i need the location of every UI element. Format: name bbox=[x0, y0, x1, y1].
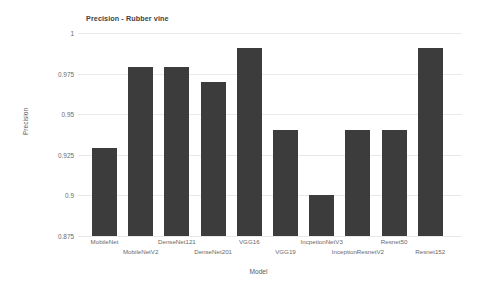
y-tick-label: 0.9 bbox=[65, 192, 74, 199]
chart-title: Precision - Rubber vine bbox=[86, 14, 169, 23]
x-tick-label: VGG19 bbox=[275, 248, 296, 255]
bar bbox=[345, 130, 370, 236]
y-axis-tick-labels: 10.9750.950.9250.90.875 bbox=[42, 33, 74, 236]
y-tick-label: 0.925 bbox=[58, 151, 74, 158]
x-tick-label: MobileNetV2 bbox=[123, 248, 158, 255]
bar bbox=[201, 82, 226, 236]
x-tick-label: InceptionResnetV2 bbox=[332, 248, 384, 255]
gridline bbox=[78, 236, 462, 237]
bar bbox=[309, 195, 334, 236]
x-tick-label: VGG16 bbox=[239, 238, 260, 245]
bar bbox=[418, 48, 443, 236]
x-tick-label: MobileNet bbox=[91, 238, 119, 245]
x-tick-label: Resnet152 bbox=[415, 248, 445, 255]
bar bbox=[237, 48, 262, 236]
y-tick-label: 0.95 bbox=[62, 111, 74, 118]
y-tick-label: 1 bbox=[70, 30, 74, 37]
precision-bar-chart: Precision - Rubber vine 10.9750.950.9250… bbox=[0, 0, 477, 287]
x-tick-label: IncpetionNetV3 bbox=[301, 238, 343, 245]
bar bbox=[164, 67, 189, 236]
y-axis-title: Precision bbox=[22, 108, 29, 135]
bar bbox=[273, 130, 298, 236]
x-axis-title: Model bbox=[0, 268, 477, 275]
gridline bbox=[78, 33, 462, 34]
x-tick-label: DenseNet121 bbox=[158, 238, 196, 245]
plot-area bbox=[78, 33, 462, 236]
x-axis-tick-labels: MobileNetMobileNetV2DenseNet121DenseNet2… bbox=[0, 238, 477, 262]
x-tick-label: DenseNet201 bbox=[194, 248, 232, 255]
x-tick-label: Resnet50 bbox=[381, 238, 408, 245]
bar bbox=[128, 67, 153, 236]
bar bbox=[382, 130, 407, 236]
bar bbox=[92, 148, 117, 236]
y-tick-label: 0.975 bbox=[58, 70, 74, 77]
